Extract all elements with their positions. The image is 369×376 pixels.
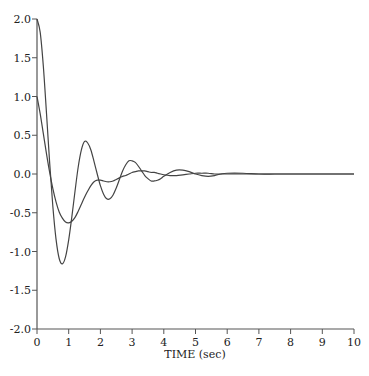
y-axis: 2.01.51.00.50.0-0.5-1.0-1.5-2.0	[10, 13, 37, 336]
x-tick-label: 1	[65, 336, 72, 349]
y-tick-label: 1.5	[14, 52, 32, 65]
x-tick-label: 9	[319, 336, 326, 349]
line-chart: 2.01.51.00.50.0-0.5-1.0-1.5-2.0 01234567…	[0, 0, 369, 376]
y-tick-label: 2.0	[14, 13, 32, 26]
y-tick-label: 0.0	[14, 168, 32, 181]
y-tick-label: -2.0	[10, 323, 31, 336]
y-tick-label: -0.5	[10, 207, 31, 220]
series-layer	[37, 19, 354, 264]
x-axis: 012345678910	[34, 329, 362, 349]
x-tick-label: 8	[287, 336, 294, 349]
y-tick-label: 1.0	[14, 91, 32, 104]
x-tick-label: 3	[129, 336, 136, 349]
y-tick-label: 0.5	[14, 129, 32, 142]
x-tick-label: 0	[34, 336, 41, 349]
x-tick-label: 2	[97, 336, 104, 349]
x-tick-label: 10	[347, 336, 361, 349]
series-line-2	[37, 97, 354, 223]
x-tick-label: 7	[255, 336, 262, 349]
x-axis-title: TIME (sec)	[164, 348, 225, 361]
y-tick-label: -1.5	[10, 284, 31, 297]
series-line-1	[37, 19, 354, 264]
y-tick-label: -1.0	[10, 246, 31, 259]
